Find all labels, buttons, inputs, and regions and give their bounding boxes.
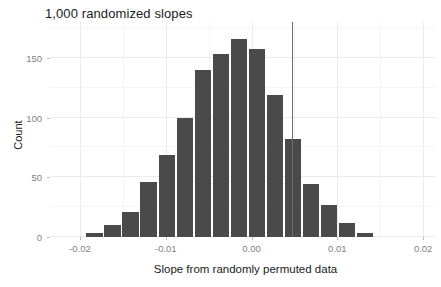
y-axis-tick-mark: [47, 177, 50, 178]
x-axis-tick-mark: [423, 237, 424, 240]
histogram-bar: [303, 184, 320, 237]
y-axis-tick-label: 50: [31, 172, 42, 183]
x-axis-title: Slope from randomly permuted data: [50, 263, 441, 275]
x-axis-tick-label: 0.00: [242, 243, 261, 254]
histogram-bar: [267, 95, 284, 237]
gridline-major-vertical: [80, 22, 81, 237]
x-axis-tick-label: 0.01: [328, 243, 347, 254]
y-axis-ticks: 050100150: [0, 0, 46, 287]
x-axis-tick-label: -0.02: [69, 243, 91, 254]
histogram-bar: [140, 182, 157, 237]
histogram-bar: [213, 54, 230, 237]
gridline-major-vertical: [337, 22, 338, 237]
histogram-bar: [159, 155, 176, 237]
y-axis-tick-label: 150: [26, 52, 42, 63]
gridline-major-vertical: [423, 22, 424, 237]
histogram-bar: [122, 212, 139, 237]
x-axis-tick-label: 0.02: [414, 243, 433, 254]
histogram-bar: [339, 223, 356, 237]
histogram-bar: [86, 233, 103, 237]
chart-title: 1,000 randomized slopes: [45, 6, 193, 21]
gridline-minor-vertical: [123, 22, 124, 237]
histogram-bar: [104, 225, 121, 237]
histogram-bar: [249, 49, 266, 237]
x-axis-tick-mark: [80, 237, 81, 240]
histogram-bar: [231, 39, 248, 237]
x-axis-tick-mark: [252, 237, 253, 240]
y-axis-tick-mark: [47, 118, 50, 119]
histogram-bar: [195, 70, 212, 237]
x-axis-tick-mark: [337, 237, 338, 240]
histogram-bar: [177, 118, 194, 237]
plot-panel: [50, 22, 436, 237]
y-axis-tick-label: 0: [37, 232, 42, 243]
reference-line: [292, 22, 294, 237]
x-axis-tick-label: -0.01: [155, 243, 177, 254]
histogram-bar: [357, 233, 374, 237]
gridline-minor-vertical: [380, 22, 381, 237]
y-axis-tick-label: 100: [26, 112, 42, 123]
histogram-bar: [321, 205, 338, 237]
gridline-minor-horizontal: [50, 27, 436, 28]
chart-root: 1,000 randomized slopes Count 050100150 …: [0, 0, 441, 287]
x-axis-tick-mark: [166, 237, 167, 240]
y-axis-tick-mark: [47, 237, 50, 238]
y-axis-tick-mark: [47, 58, 50, 59]
